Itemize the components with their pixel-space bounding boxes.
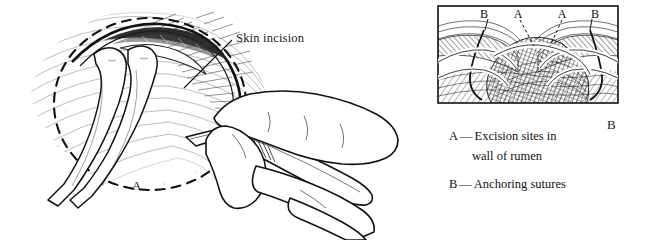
legend-text-a-line2: wall of rumen: [449, 146, 639, 166]
inset-label-b-right: B: [591, 7, 599, 21]
illustration-canvas: B A A B: [0, 0, 655, 240]
legend-item-b: B—Anchoring sutures: [449, 174, 639, 194]
muscle-hatching: [150, 12, 253, 109]
legend: A—Excision sites in wall of rumen B—Anch…: [449, 126, 639, 194]
legend-item-a: A—Excision sites in wall of rumen: [449, 126, 639, 167]
legend-text-b-line1: Anchoring sutures: [474, 177, 566, 191]
inset-label-b-left: B: [480, 7, 488, 21]
legend-text-a-line1: Excision sites in: [475, 129, 557, 143]
skin-incision-label: Skin incision: [236, 31, 304, 46]
inset-label-a-right: A: [558, 7, 567, 21]
panel-b-drawing: B A A B: [438, 6, 618, 104]
legend-dash-b: —: [457, 177, 474, 191]
legend-dash-a: —: [458, 129, 475, 143]
legend-spacer: [449, 167, 639, 174]
surgical-illustration-figure: B A A B Skin incision A B A—Excision sit…: [0, 0, 655, 240]
legend-key-a: A: [449, 129, 458, 143]
inset-label-a-left: A: [514, 7, 523, 21]
panel-a-letter: A: [132, 178, 142, 194]
panel-a-drawing: [29, 12, 398, 240]
